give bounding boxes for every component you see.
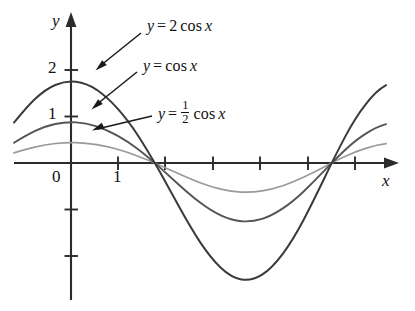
curve-label-two-cos-var: y xyxy=(147,18,154,34)
curve-label-two-cos-arg: x xyxy=(205,18,212,34)
curve-label-cos-var: y xyxy=(143,58,150,74)
chart-canvas xyxy=(0,0,415,311)
curve-label-two-cos-fn: cos xyxy=(180,18,202,34)
curve-label-two-cos-eq: = xyxy=(157,18,166,34)
curve-label-cos-eq: = xyxy=(153,58,162,74)
y-tick-label-1: 1 xyxy=(48,105,57,122)
curve-label-half-cos-var: y xyxy=(158,106,165,122)
curve-label-half-cos-arg: x xyxy=(218,106,225,122)
curve-label-cos-fn: cos xyxy=(165,58,187,74)
curve-label-cos-arg: x xyxy=(190,58,197,74)
x-tick-label-1: 1 xyxy=(113,168,122,185)
curve-label-two-cos: y = 2 cos x xyxy=(147,18,212,34)
curve-label-half-cos-fraction: 1 2 xyxy=(181,99,189,126)
curve-label-half-cos-eq: = xyxy=(168,106,177,122)
y-tick-label-2: 2 xyxy=(48,59,57,76)
curve-label-half-cos: y = 1 2 cos x xyxy=(158,100,225,127)
annotation-arrows xyxy=(96,33,152,129)
x-axis-label: x xyxy=(382,172,390,189)
fraction-denominator: 2 xyxy=(181,112,189,126)
leader-line-2cos xyxy=(100,33,141,66)
curve-cos xyxy=(14,122,386,221)
y-axis-arrowhead xyxy=(66,12,77,27)
cosine-amplitude-chart: y x 2 1 0 1 y = 2 cos x y = cos x y = 1 … xyxy=(0,0,415,311)
origin-label: 0 xyxy=(52,168,61,185)
fraction-numerator: 1 xyxy=(181,99,189,112)
curve-label-cos: y = cos x xyxy=(143,58,197,74)
y-axis-label: y xyxy=(52,12,60,29)
x-axis-arrowhead xyxy=(384,158,399,169)
leader-line-cos xyxy=(96,72,137,105)
curve-label-two-cos-coef: 2 xyxy=(169,18,177,34)
curve-label-half-cos-fn: cos xyxy=(193,106,215,122)
